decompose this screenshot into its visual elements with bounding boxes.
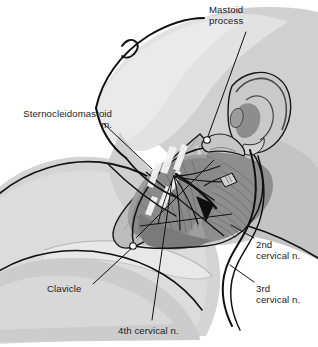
label-sternocleidomastoid: Sternocleidomastoidm. [7, 108, 112, 131]
endpoint-clavicle [130, 243, 137, 250]
label-clavicle: Clavicle [47, 283, 81, 294]
label-sternocleidomastoid-line2: m. [101, 119, 112, 130]
label-third-cervical-nerve: 3rdcervical n. [256, 283, 300, 306]
label-fourth-cervical-nerve: 4th cervical n. [118, 325, 179, 336]
label-sternocleidomastoid-line1: Sternocleidomastoid [23, 108, 112, 119]
label-mastoid-process: Mastoidprocess [209, 4, 243, 27]
label-second-cervical-nerve-line1: 2nd [256, 239, 272, 250]
label-third-cervical-nerve-line1: 3rd [256, 283, 270, 294]
label-third-cervical-nerve-line2: cervical n. [256, 294, 300, 305]
label-clavicle-text: Clavicle [47, 283, 81, 294]
endpoint-mastoid [204, 137, 211, 144]
label-mastoid-process-line2: process [209, 15, 243, 26]
label-fourth-cervical-nerve-text: 4th cervical n. [118, 325, 179, 336]
label-mastoid-process-line1: Mastoid [209, 4, 243, 15]
label-second-cervical-nerve-line2: cervical n. [256, 250, 300, 261]
label-second-cervical-nerve: 2ndcervical n. [256, 239, 300, 262]
